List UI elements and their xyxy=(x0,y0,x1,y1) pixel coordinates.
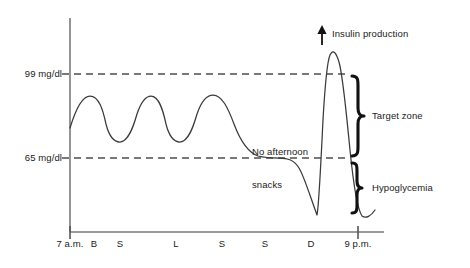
hypoglycemia-zone-label: Hypoglycemia xyxy=(372,182,433,194)
x-label-snack-evening: S xyxy=(253,238,277,250)
x-label-9pm: 9 p.m. xyxy=(335,238,381,250)
blood-glucose-chart: 99 mg/dl 65 mg/dl 7 a.m. B S L S S D 9 p… xyxy=(0,0,470,268)
no-afternoon-snacks-label: No afternoon snacks xyxy=(252,124,308,212)
up-arrow-icon xyxy=(317,25,326,45)
x-label-snack-morning: S xyxy=(108,238,132,250)
target-zone-label: Target zone xyxy=(372,110,423,122)
no-afternoon-snacks-line2: snacks xyxy=(252,179,308,190)
y-label-99: 99 mg/dl xyxy=(6,68,62,80)
chart-canvas xyxy=(0,0,470,268)
x-label-lunch: L xyxy=(164,238,188,250)
x-label-breakfast: B xyxy=(82,238,106,250)
no-afternoon-snacks-line1: No afternoon xyxy=(252,146,308,157)
hypoglycemia-zone-brace-icon xyxy=(352,163,362,213)
insulin-production-label: Insulin production xyxy=(332,28,408,40)
glucose-curve xyxy=(70,52,375,217)
y-label-65: 65 mg/dl xyxy=(6,152,62,164)
target-zone-brace-icon xyxy=(352,76,364,156)
x-label-snack-afternoon: S xyxy=(210,238,234,250)
x-label-dinner: D xyxy=(299,238,323,250)
